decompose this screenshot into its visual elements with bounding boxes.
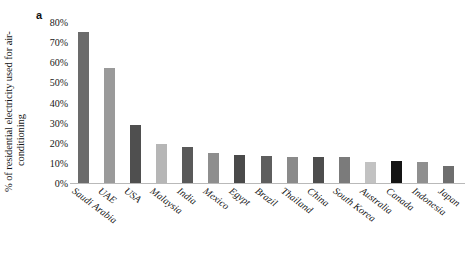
y-axis-tick-70: 70%	[50, 37, 68, 48]
bar-saudi-arabia	[78, 32, 89, 183]
bar-australia	[365, 162, 376, 183]
bar-canada	[391, 161, 402, 183]
bar-uae	[104, 68, 115, 183]
bar-china	[313, 157, 324, 183]
y-axis-tick-50: 50%	[50, 77, 68, 88]
bar-brazil	[261, 156, 272, 183]
y-axis-title: % of residential electricity used for ai…	[0, 0, 34, 196]
x-axis-line	[70, 183, 465, 184]
y-axis-tick-20: 20%	[50, 137, 68, 148]
bar-indonesia	[417, 162, 428, 183]
x-axis-label-brazil: Brazil	[253, 185, 279, 209]
bar-usa	[130, 125, 141, 183]
y-axis-tick-30: 30%	[50, 117, 68, 128]
x-axis-label-egypt: Egypt	[227, 185, 252, 208]
y-axis-tick-10: 10%	[50, 157, 68, 168]
bar-mexico	[208, 153, 219, 183]
y-axis-tick-60: 60%	[50, 57, 68, 68]
plot-area	[70, 22, 462, 183]
y-axis-tick-labels: 0%10%20%30%40%50%60%70%80%	[36, 22, 68, 183]
y-axis-tick-0: 0%	[55, 178, 68, 189]
bar-series	[70, 22, 462, 183]
bar-japan	[443, 166, 454, 183]
bar-thailand	[287, 157, 298, 183]
bar-malaysia	[156, 144, 167, 183]
y-axis-title-line1: % of residential electricity used for ai…	[3, 31, 14, 192]
x-axis-category-labels: Saudi ArabiaUAEUSAMalaysiaIndiaMexicoEgy…	[70, 185, 470, 255]
y-axis-tick-80: 80%	[50, 17, 68, 28]
y-axis-tick-40: 40%	[50, 97, 68, 108]
y-axis-title-line2: conditioning	[15, 114, 26, 166]
bar-india	[182, 147, 193, 183]
bar-south-korea	[339, 157, 350, 183]
figure-panel-a: a % of residential electricity used for …	[0, 0, 473, 258]
bar-egypt	[234, 155, 245, 183]
x-axis-label-mexico: Mexico	[201, 185, 231, 212]
panel-label: a	[36, 10, 42, 21]
x-axis-label-usa: USA	[123, 185, 144, 205]
